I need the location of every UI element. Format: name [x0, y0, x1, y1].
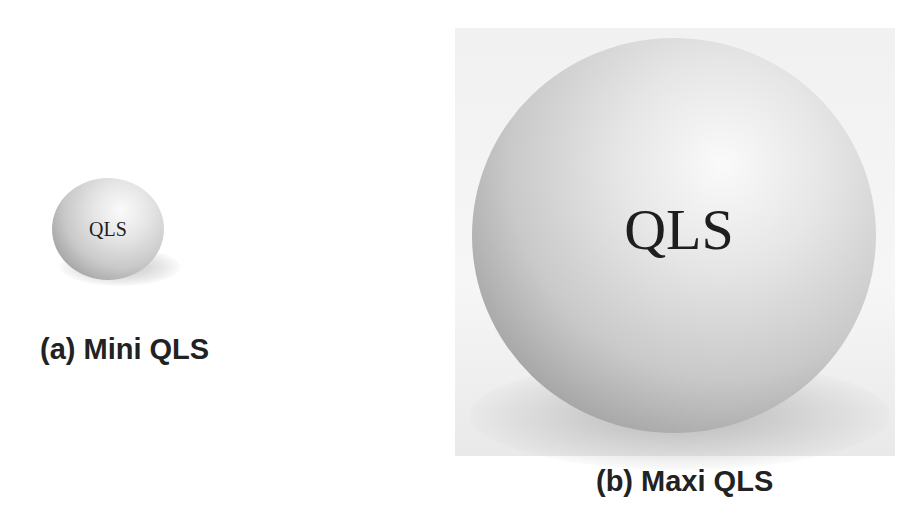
- mini-qls-caption: (a) Mini QLS: [40, 333, 209, 366]
- mini-qls-sphere: QLS: [52, 178, 164, 280]
- maxi-qls-caption: (b) Maxi QLS: [596, 465, 773, 498]
- mini-sphere-label: QLS: [89, 218, 127, 241]
- maxi-qls-sphere: QLS: [472, 38, 876, 433]
- maxi-sphere-label: QLS: [624, 196, 734, 263]
